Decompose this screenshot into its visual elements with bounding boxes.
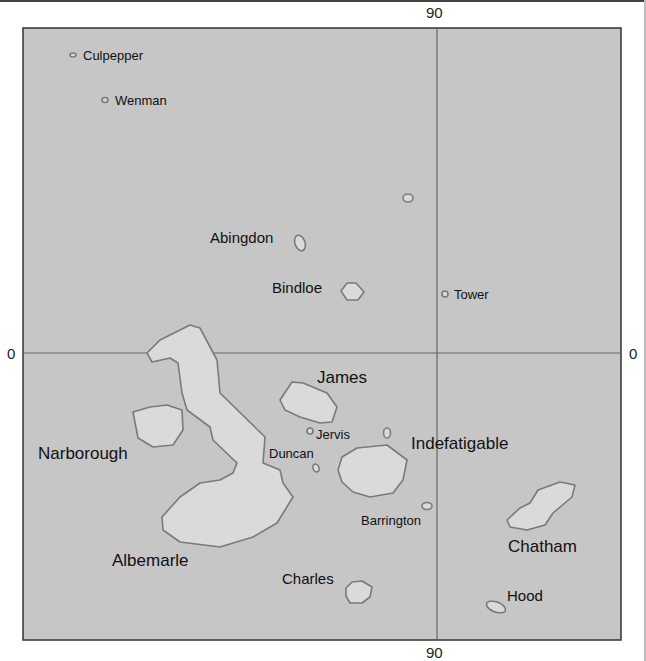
label-narborough: Narborough [38, 444, 128, 464]
label-albemarle: Albemarle [112, 551, 189, 571]
right-latitude-label: 0 [629, 345, 637, 362]
label-wenman: Wenman [115, 93, 167, 108]
label-abingdon: Abingdon [210, 229, 273, 246]
label-jervis: Jervis [316, 427, 350, 442]
label-charles: Charles [282, 570, 334, 587]
label-chatham: Chatham [508, 537, 577, 557]
island-tower[interactable] [442, 291, 448, 297]
island-jervis[interactable] [307, 428, 313, 434]
map-canvas [0, 0, 646, 661]
left-latitude-label: 0 [7, 345, 15, 362]
label-james: James [317, 368, 367, 388]
label-hood: Hood [507, 587, 543, 604]
top-longitude-label: 90 [426, 4, 443, 21]
label-bindloe: Bindloe [272, 279, 322, 296]
label-indefatigable: Indefatigable [411, 434, 508, 454]
island-culpepper[interactable] [70, 53, 76, 57]
label-barrington: Barrington [361, 513, 421, 528]
label-tower: Tower [454, 287, 489, 302]
island-barrington[interactable] [422, 503, 432, 510]
island-unnamed-east-james[interactable] [384, 428, 391, 438]
island-wenman[interactable] [102, 98, 108, 103]
label-duncan: Duncan [269, 446, 314, 461]
label-culpepper: Culpepper [83, 48, 143, 63]
bottom-longitude-label: 90 [426, 644, 443, 661]
island-unnamed-north[interactable] [403, 194, 413, 202]
